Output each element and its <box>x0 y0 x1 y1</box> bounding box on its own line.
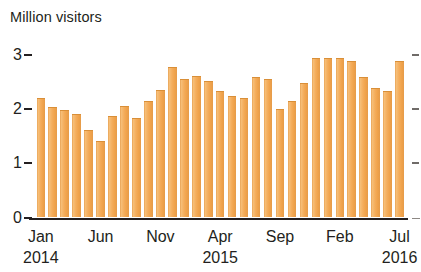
bar <box>204 81 213 217</box>
bar <box>312 58 321 217</box>
bar <box>288 101 297 218</box>
x-axis-line <box>29 218 408 220</box>
x-axis-line-tail <box>412 218 420 220</box>
bar <box>48 107 57 218</box>
bar <box>72 114 81 218</box>
bar <box>216 91 225 218</box>
x-axis-year-label: 2015 <box>188 250 252 266</box>
x-axis-tick-label: Nov <box>130 229 190 245</box>
bar <box>120 106 129 217</box>
bar <box>276 109 285 218</box>
plot-area: 0123 JanJunNovAprSepFebJul201420152016 <box>0 0 421 272</box>
bar <box>252 77 261 218</box>
bar <box>300 83 309 218</box>
bar <box>371 88 380 218</box>
bar <box>383 91 392 218</box>
bar <box>240 98 249 217</box>
bar <box>192 76 201 217</box>
bar <box>156 90 165 217</box>
x-axis-year-label: 2014 <box>9 250 73 266</box>
x-axis-tick-label: Sep <box>250 229 310 245</box>
bar <box>264 79 273 217</box>
bar <box>37 98 46 217</box>
x-axis-tick-label: Jan <box>11 229 71 245</box>
bar <box>336 58 345 218</box>
x-axis-year-label: 2016 <box>368 250 421 266</box>
bar <box>347 61 356 218</box>
bar <box>144 101 153 218</box>
x-axis-tick-label: Feb <box>310 229 370 245</box>
bar <box>180 79 189 217</box>
x-axis-tick-label: Apr <box>190 229 250 245</box>
bar <box>60 110 69 218</box>
bar <box>84 130 93 218</box>
bar <box>395 61 404 218</box>
bar <box>108 116 117 218</box>
x-axis-tick-label: Jul <box>370 229 421 245</box>
bar <box>324 58 333 218</box>
bar <box>168 67 177 218</box>
bar <box>132 118 141 217</box>
bar <box>228 96 237 218</box>
x-axis-tick-label: Jun <box>71 229 131 245</box>
chart-figure: Million visitors 0123 JanJunNovAprSepFeb… <box>0 0 421 272</box>
bar <box>96 141 105 217</box>
bar <box>359 77 368 217</box>
